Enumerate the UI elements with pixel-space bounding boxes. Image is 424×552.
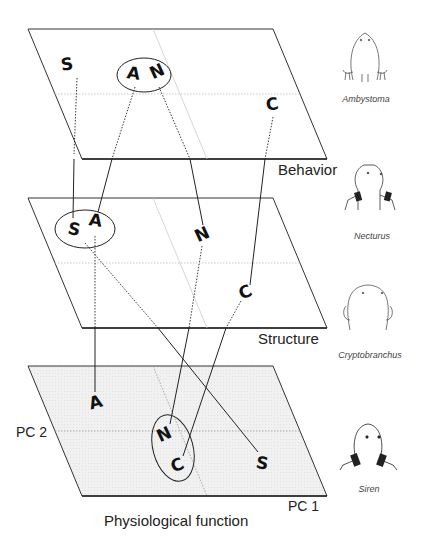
figure-cryptobranchus [344, 285, 393, 330]
figure-ambystoma [343, 33, 387, 82]
plane-behavior [28, 29, 327, 159]
plane-label-structure: Structure [258, 330, 319, 347]
node-behavior-s: S [60, 55, 74, 74]
species-label-necturus: Necturus [327, 231, 417, 241]
axis-label-pc2: PC 2 [16, 424, 47, 440]
plane-label-physiological: Physiological function [104, 512, 248, 529]
figure-necturus [345, 165, 395, 210]
species-label-cryptobranchus: Cryptobranchus [325, 350, 415, 360]
species-label-siren: Siren [324, 484, 414, 494]
three-plane-diagram [0, 0, 424, 552]
species-label-ambystoma: Ambystoma [321, 94, 411, 104]
plane-label-behavior: Behavior [278, 161, 337, 178]
figure-siren [340, 424, 397, 470]
node-structure-a: A [88, 211, 103, 230]
node-behavior-a: A [126, 64, 141, 83]
axis-label-pc1: PC 1 [288, 498, 319, 514]
node-behavior-c: C [265, 95, 280, 114]
